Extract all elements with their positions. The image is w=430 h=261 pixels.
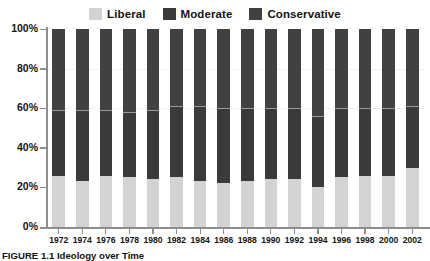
bar-segment-moderate [265, 108, 278, 179]
bar-segment-moderate [312, 116, 325, 187]
bar-segment-conservative [217, 29, 230, 108]
bar-segment-moderate [170, 106, 183, 177]
bar-segment-conservative [194, 29, 207, 106]
bar-segment-conservative [100, 29, 113, 110]
bar-segment-conservative [359, 29, 372, 108]
y-axis-label: 80% [2, 62, 38, 74]
bar-segment-liberal [265, 179, 278, 227]
legend-item-moderate: Moderate [163, 8, 233, 20]
x-axis-tick [341, 228, 342, 234]
bar-segment-moderate [406, 106, 419, 167]
plot-area [47, 29, 424, 227]
bar-segment-conservative [288, 29, 301, 108]
bar-1980 [147, 29, 160, 227]
bar-segment-conservative [123, 29, 136, 112]
x-axis-tick [388, 228, 389, 234]
bar-1994 [312, 29, 325, 227]
legend-swatch-icon-moderate [163, 8, 176, 20]
bar-segment-liberal [100, 176, 113, 227]
legend-label: Moderate [181, 8, 233, 20]
x-axis-line [40, 227, 430, 229]
bar-segment-liberal [241, 181, 254, 227]
bar-1988 [241, 29, 254, 227]
x-axis-label: 1990 [259, 235, 283, 245]
bar-segment-moderate [52, 110, 65, 175]
bar-segment-liberal [147, 179, 160, 227]
x-axis-label: 1978 [117, 235, 141, 245]
legend-item-conservative: Conservative [249, 8, 340, 20]
bar-1996 [335, 29, 348, 227]
bar-segment-liberal [76, 181, 89, 227]
bar-2000 [382, 29, 395, 227]
bar-segment-liberal [335, 177, 348, 227]
x-axis-label: 1980 [141, 235, 165, 245]
x-axis-label: 1986 [212, 235, 236, 245]
x-axis-tick [58, 228, 59, 234]
x-axis-label: 2000 [377, 235, 401, 245]
bar-segment-liberal [359, 176, 372, 227]
chart-legend: LiberalModerateConservative [0, 5, 430, 23]
bar-segment-moderate [76, 110, 89, 181]
bar-segment-moderate [359, 108, 372, 175]
bar-1992 [288, 29, 301, 227]
x-axis-tick [129, 228, 130, 234]
bar-segment-moderate [147, 110, 160, 179]
bar-1972 [52, 29, 65, 227]
bar-1974 [76, 29, 89, 227]
x-axis-tick [82, 228, 83, 234]
x-axis-label: 1982 [165, 235, 189, 245]
bar-1986 [217, 29, 230, 227]
x-axis-label: 1974 [70, 235, 94, 245]
bar-segment-liberal [217, 183, 230, 227]
legend-swatch-icon-liberal [89, 8, 102, 20]
bar-segment-conservative [312, 29, 325, 116]
bar-segment-moderate [194, 106, 207, 181]
bar-segment-conservative [265, 29, 278, 108]
bar-segment-conservative [241, 29, 254, 108]
bar-segment-conservative [335, 29, 348, 108]
y-axis-tick [40, 147, 46, 149]
bar-1990 [265, 29, 278, 227]
bar-segment-liberal [312, 187, 325, 227]
x-axis-tick [317, 228, 318, 234]
x-axis-tick [200, 228, 201, 234]
legend-swatch-icon-conservative [249, 8, 262, 20]
bar-1982 [170, 29, 183, 227]
bar-2002 [406, 29, 419, 227]
x-axis-label: 1972 [47, 235, 71, 245]
x-axis-label: 1994 [306, 235, 330, 245]
x-axis-tick [270, 228, 271, 234]
bar-segment-moderate [217, 108, 230, 183]
bar-segment-conservative [147, 29, 160, 110]
bar-segment-liberal [123, 177, 136, 227]
figure-caption-text: FIGURE 1.1 Ideology over Time [2, 250, 144, 261]
legend-item-liberal: Liberal [89, 8, 145, 20]
bar-segment-conservative [382, 29, 395, 108]
bar-1984 [194, 29, 207, 227]
y-axis-tick [40, 187, 46, 189]
x-axis-label: 1996 [330, 235, 354, 245]
x-axis-label: 1976 [94, 235, 118, 245]
bar-segment-moderate [241, 108, 254, 181]
x-axis-label: 1992 [282, 235, 306, 245]
bar-segment-conservative [406, 29, 419, 106]
legend-label: Liberal [107, 8, 145, 20]
x-axis-tick [152, 228, 153, 234]
x-axis-tick [247, 228, 248, 234]
bar-segment-liberal [52, 176, 65, 227]
bar-segment-moderate [382, 108, 395, 175]
bar-segment-conservative [52, 29, 65, 110]
bar-segment-moderate [335, 108, 348, 177]
y-axis-tick [40, 68, 46, 70]
y-axis-label: 60% [2, 101, 38, 113]
x-axis-tick [294, 228, 295, 234]
x-axis-label: 1988 [235, 235, 259, 245]
bar-1976 [100, 29, 113, 227]
bar-1998 [359, 29, 372, 227]
x-axis-label: 1998 [353, 235, 377, 245]
y-axis-label: 0% [2, 220, 38, 232]
bar-segment-moderate [100, 110, 113, 175]
legend-label: Conservative [267, 8, 340, 20]
x-axis-tick [176, 228, 177, 234]
bar-segment-liberal [382, 176, 395, 227]
